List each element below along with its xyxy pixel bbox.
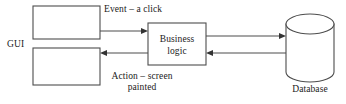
- database-cylinder-top: [286, 14, 334, 34]
- edge-gui-to-business-arrowhead: [141, 28, 148, 34]
- business-logic-label-line1: Business: [148, 33, 206, 45]
- architecture-diagram: GUI Event – a click Action – screen pain…: [0, 0, 346, 104]
- business-logic-label-line2: logic: [148, 45, 206, 57]
- gui-top-box[interactable]: [33, 6, 100, 39]
- business-logic-label: Business logic: [148, 33, 206, 57]
- database-label: Database: [283, 84, 337, 95]
- edge-business-to-gui-arrowhead: [100, 50, 107, 56]
- action-edge-label-line1: Action – screen: [103, 71, 181, 82]
- edge-database-to-business-arrowhead: [206, 50, 213, 56]
- edge-business-to-database-arrowhead: [279, 33, 286, 39]
- action-edge-label: Action – screen painted: [103, 71, 181, 93]
- gui-bottom-box[interactable]: [33, 48, 100, 85]
- action-edge-label-line2: painted: [103, 82, 181, 93]
- gui-label: GUI: [7, 39, 24, 50]
- event-edge-label: Event – a click: [104, 4, 162, 15]
